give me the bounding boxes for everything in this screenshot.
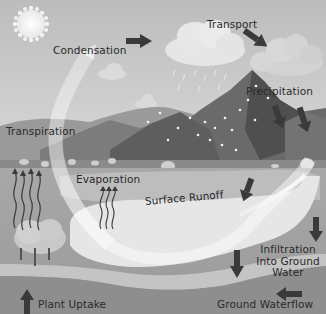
label-condensation: Condensation — [53, 45, 126, 57]
evaporation-arrowheads — [100, 186, 118, 191]
label-ground-waterflow: Ground Waterflow — [217, 299, 313, 311]
label-transpiration: Transpiration — [6, 126, 76, 138]
water-cycle-diagram: Condensation Transport Precipitation Tra… — [0, 0, 326, 314]
label-precipitation: Precipitation — [246, 86, 313, 98]
label-infiltration: Infiltration Into Ground Water — [252, 244, 324, 279]
label-plant-uptake: Plant Uptake — [38, 299, 106, 311]
label-infiltration-line1: Infiltration — [252, 244, 324, 256]
label-transport: Transport — [207, 19, 257, 31]
label-infiltration-line3: Water — [252, 267, 324, 279]
label-evaporation: Evaporation — [76, 174, 140, 186]
